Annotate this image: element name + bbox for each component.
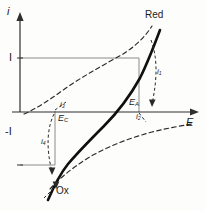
curve-label-red: Red xyxy=(145,10,163,20)
plot-canvas xyxy=(0,0,206,211)
current-i4-subscript: 4 xyxy=(43,140,46,146)
current-label-i1: i1 xyxy=(157,68,162,76)
figure-voltammogram: i E I -I Red Ox EA EC i1 i2 i3 i4 xyxy=(0,0,206,211)
current-label-i2: i2 xyxy=(136,113,141,121)
current-i3-subscript: 3 xyxy=(62,103,65,109)
y-tick-label-bottom: -I xyxy=(5,126,12,137)
x-axis-arrow xyxy=(190,108,199,115)
y-tick-label-top: I xyxy=(9,52,12,63)
y-axis-label: i xyxy=(7,6,9,17)
x-axis-label: E xyxy=(186,117,193,128)
potential-label-anodic: EA xyxy=(129,98,139,108)
potential-cathodic-subscript: C xyxy=(64,117,68,123)
potential-label-cathodic: EC xyxy=(58,114,68,124)
arrowhead-i4 xyxy=(49,167,56,175)
current-i1-subscript: 1 xyxy=(159,70,162,76)
current-label-i3: i3 xyxy=(60,101,65,109)
figure-caption xyxy=(6,203,206,211)
current-i2-subscript: 2 xyxy=(138,115,141,121)
curve-dashed-lower xyxy=(50,124,192,189)
y-axis-arrow xyxy=(16,12,23,21)
curve-label-ox: Ox xyxy=(56,186,69,196)
indicator-i4 xyxy=(48,114,54,172)
current-label-i4: i4 xyxy=(41,138,46,146)
arrowhead-i1 xyxy=(149,100,156,108)
potential-anodic-subscript: A xyxy=(135,101,139,107)
